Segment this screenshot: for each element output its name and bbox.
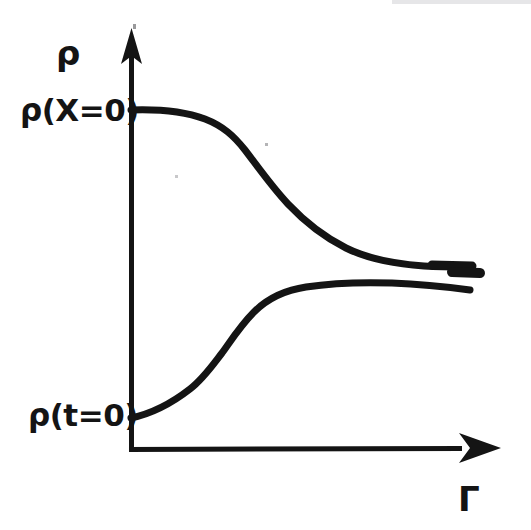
upper-curve (131, 110, 468, 267)
x-axis-label: Γ (458, 482, 480, 516)
x-axis-arrowhead (459, 433, 501, 463)
upper-curve-start-label: ρ(X=0) (20, 95, 139, 126)
upper-curve-start-suffix: =0) (79, 92, 139, 128)
lower-curve-start-label: ρ(t=0) (28, 400, 138, 431)
plot-area (0, 0, 531, 530)
lower-curve (131, 283, 470, 418)
curves-group (131, 110, 480, 418)
upper-curve-start-variable: X (55, 92, 78, 128)
upper-curve-right-tail (432, 265, 472, 266)
upper-curve-start-prefix: ρ( (20, 92, 55, 128)
figure-canvas: ρ ρ(X=0) ρ(t=0) Γ (0, 0, 531, 530)
x-axis-line (129, 449, 462, 450)
y-axis-label: ρ (56, 36, 80, 70)
curves-merge-segment (452, 272, 480, 273)
